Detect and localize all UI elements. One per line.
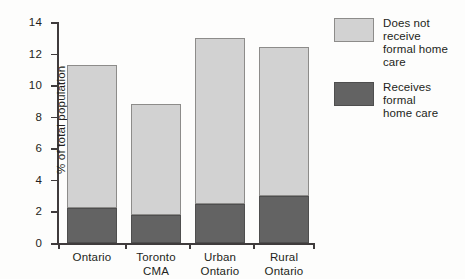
bar-segment-receives (195, 204, 245, 243)
plot-area: 14 12 10 8 6 4 2 0 (57, 22, 315, 243)
bar-segment-receives (259, 196, 309, 243)
legend-swatch-dark-gray (334, 82, 374, 106)
y-tick-label-10: 10 (29, 79, 42, 91)
x-label-rural-ontario: Rural Ontario (254, 251, 314, 278)
bars-container (57, 22, 315, 243)
y-tick-label-2: 2 (35, 205, 42, 217)
y-tick-label-6: 6 (35, 142, 42, 154)
x-label-ontario: Ontario (62, 251, 122, 265)
x-tick-2 (189, 243, 191, 249)
x-tick-1 (125, 243, 127, 249)
x-tick-4 (313, 243, 315, 249)
bar-segment-does-not-receive (195, 38, 245, 204)
y-tick-label-8: 8 (35, 110, 42, 122)
legend-item-receives[interactable]: Receives formal home care (334, 81, 462, 120)
x-tick-3 (253, 243, 255, 249)
legend-label-does-not-receive: Does not receive formal home care (383, 17, 462, 69)
bar-segment-receives (67, 208, 117, 243)
y-tick-label-4: 4 (35, 174, 42, 186)
legend-swatch-light-gray (334, 18, 374, 42)
bar-segment-does-not-receive (131, 104, 181, 215)
y-axis-title: % of total population (55, 66, 67, 174)
x-label-urban-ontario: Urban Ontario (190, 251, 250, 278)
bar-segment-does-not-receive (259, 47, 309, 195)
legend-label-receives: Receives formal home care (383, 81, 462, 120)
y-tick-label-14: 14 (29, 16, 42, 28)
y-tick-0: 0 (51, 243, 57, 245)
x-label-toronto-cma: Toronto CMA (126, 251, 186, 278)
bar-segment-does-not-receive (67, 65, 117, 209)
stacked-bar-chart: 14 12 10 8 6 4 2 0 (0, 0, 465, 279)
legend-item-does-not-receive[interactable]: Does not receive formal home care (334, 17, 462, 69)
legend: Does not receive formal home care Receiv… (334, 17, 462, 132)
x-axis-line (57, 243, 315, 245)
y-tick-label-0: 0 (35, 237, 42, 249)
y-tick-label-12: 12 (29, 47, 42, 59)
bar-segment-receives (131, 215, 181, 243)
x-tick-0 (58, 243, 60, 249)
